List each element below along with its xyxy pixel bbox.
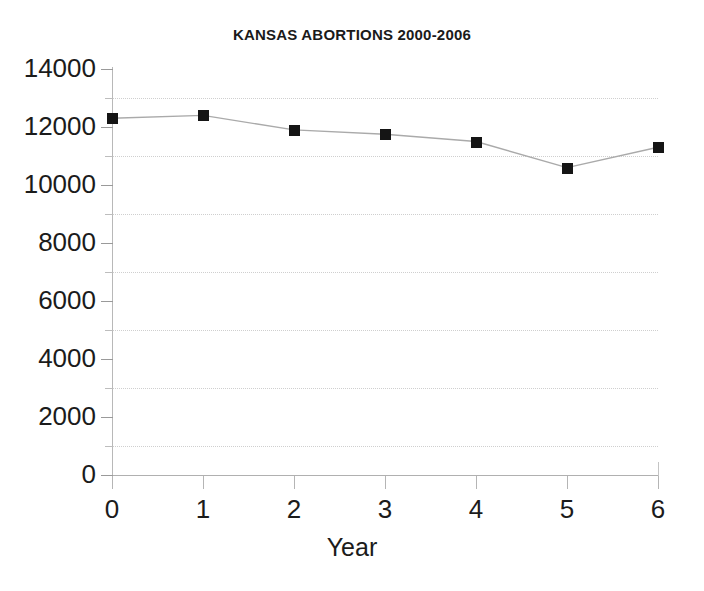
y-axis-tick — [101, 185, 113, 186]
x-axis-tick — [658, 476, 659, 489]
x-axis-tick — [203, 476, 204, 489]
x-axis-tick — [476, 476, 477, 489]
gridline — [113, 98, 658, 99]
x-axis-tick-label: 1 — [173, 494, 233, 524]
y-axis-tick-label: 12000 — [0, 113, 96, 139]
y-axis-tick-label: 0 — [0, 461, 96, 487]
x-axis-right-cap — [658, 462, 659, 476]
gridline — [113, 330, 658, 331]
x-axis-tick-label: 4 — [446, 494, 506, 524]
y-axis-tick-label: 10000 — [0, 171, 96, 197]
y-axis-tick-label: 14000 — [0, 55, 96, 81]
x-axis-tick-label: 6 — [628, 494, 688, 524]
data-point-marker — [653, 142, 664, 153]
y-axis-tick — [101, 243, 113, 244]
y-axis-tick — [101, 417, 113, 418]
y-axis-tick — [101, 127, 113, 128]
data-point-marker — [289, 125, 300, 136]
chart-title: KANSAS ABORTIONS 2000-2006 — [0, 26, 704, 43]
data-point-marker — [380, 129, 391, 140]
gridline — [113, 446, 658, 447]
data-point-marker — [198, 110, 209, 121]
x-axis-tick-label: 2 — [264, 494, 324, 524]
y-axis-tick-label: 4000 — [0, 345, 96, 371]
y-axis-tick — [101, 301, 113, 302]
y-axis-tick — [101, 69, 113, 70]
data-point-marker — [471, 137, 482, 148]
y-axis-minor-tick — [105, 98, 113, 99]
x-axis-tick — [567, 476, 568, 489]
y-axis-minor-tick — [105, 214, 113, 215]
x-axis-tick — [385, 476, 386, 489]
chart-figure: KANSAS ABORTIONS 2000-2006 1400012000100… — [0, 0, 704, 591]
x-axis-tick-label: 3 — [355, 494, 415, 524]
y-axis-minor-tick — [105, 388, 113, 389]
data-point-marker — [107, 113, 118, 124]
x-axis-tick-label: 5 — [537, 494, 597, 524]
gridline — [113, 272, 658, 273]
y-axis-tick-label: 6000 — [0, 287, 96, 313]
y-axis-minor-tick — [105, 330, 113, 331]
y-axis-minor-tick — [105, 156, 113, 157]
gridline — [113, 214, 658, 215]
gridline — [113, 388, 658, 389]
y-axis-tick — [101, 359, 113, 360]
y-axis-minor-tick — [105, 272, 113, 273]
x-axis-tick-label: 0 — [82, 494, 142, 524]
y-axis-minor-tick — [105, 446, 113, 447]
x-axis-tick — [112, 476, 113, 489]
data-point-marker — [562, 163, 573, 174]
y-axis-tick-label: 2000 — [0, 403, 96, 429]
y-axis-tick-label: 8000 — [0, 229, 96, 255]
gridline — [113, 156, 658, 157]
x-axis-tick — [294, 476, 295, 489]
x-axis-title: Year — [0, 533, 704, 561]
